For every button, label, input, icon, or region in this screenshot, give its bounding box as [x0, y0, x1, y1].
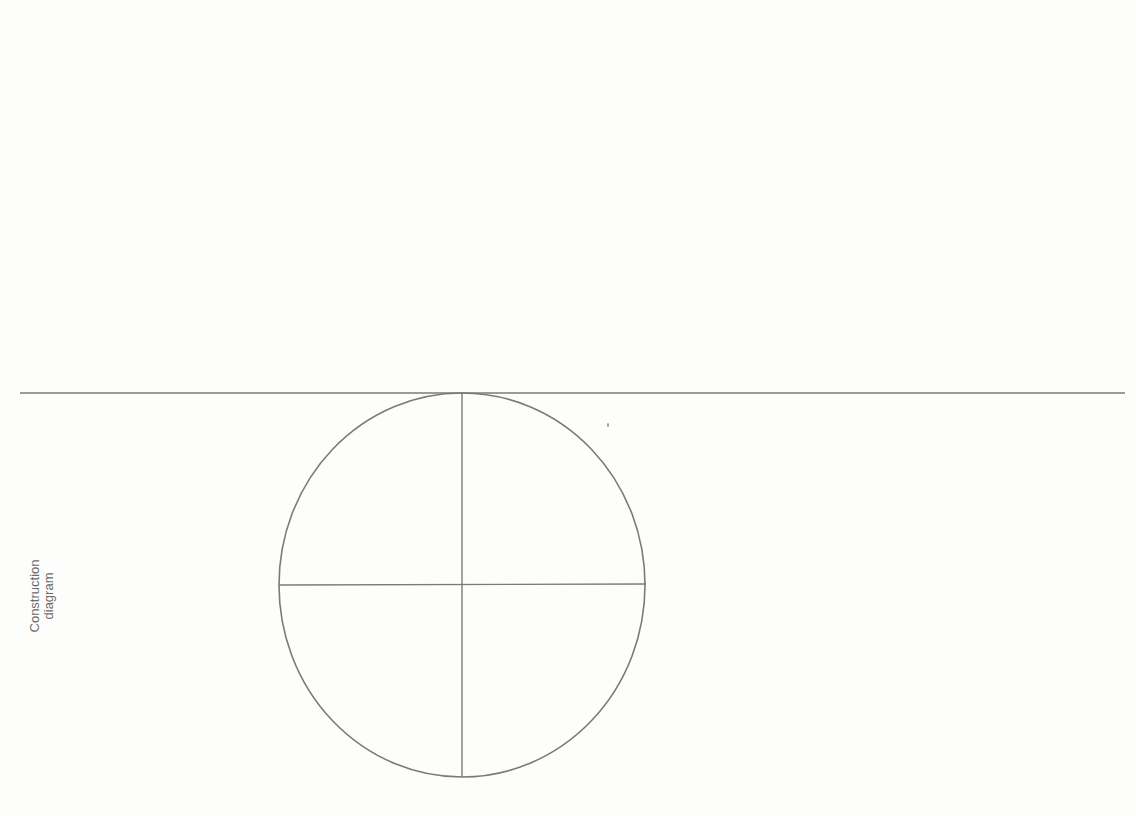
construction-diagram	[0, 0, 1136, 816]
label-line-1: Construction	[28, 560, 42, 633]
construction-diagram-canvas: Construction diagram	[0, 0, 1136, 816]
stray-mark	[607, 423, 609, 427]
label-line-2: diagram	[42, 560, 56, 633]
horizontal-diameter	[279, 584, 646, 585]
construction-diagram-label: Construction diagram	[28, 560, 56, 633]
